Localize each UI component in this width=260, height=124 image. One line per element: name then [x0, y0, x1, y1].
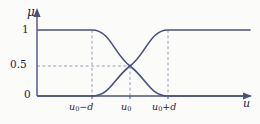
x-tick-operator: +d	[162, 101, 176, 112]
x-tick-label-u0: u0	[121, 102, 131, 113]
x-tick-label-u0-minus-d: u0−d	[69, 102, 93, 113]
curve-decreasing-membership	[38, 30, 250, 96]
y-axis-label: μ	[27, 6, 35, 18]
y-tick-label-0point5: 0.5	[10, 59, 27, 70]
membership-function-figure: μ u 1 0.5 0 u0−d u0 u0+d	[0, 0, 260, 124]
y-tick-label-0: 0	[24, 89, 31, 100]
x-tick-label-u0-plus-d: u0+d	[152, 102, 176, 113]
x-axis-label: u	[243, 98, 250, 109]
y-tick-label-1: 1	[22, 24, 29, 35]
curve-increasing-membership	[38, 30, 250, 96]
x-tick-operator: −d	[79, 101, 93, 112]
x-tick-subscript: 0	[127, 105, 131, 113]
